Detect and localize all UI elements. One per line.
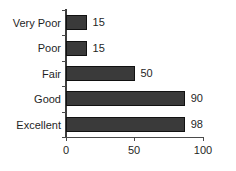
bar-very-poor bbox=[66, 15, 87, 30]
y-axis-tick-label-2: Fair bbox=[42, 69, 61, 80]
bar-fair bbox=[66, 66, 135, 81]
x-axis-tick-100 bbox=[203, 137, 204, 141]
bar-excellent bbox=[66, 117, 185, 132]
x-axis-tick-label-50: 50 bbox=[128, 145, 140, 156]
bar-value-excellent: 98 bbox=[191, 119, 203, 130]
y-axis-tick-label-3: Good bbox=[34, 94, 61, 105]
bar-value-fair: 50 bbox=[141, 68, 153, 79]
bar-chart: Very Poor Poor Fair Good Excellent 15 15… bbox=[0, 0, 236, 171]
bar-value-good: 90 bbox=[191, 93, 203, 104]
bar-row-excellent: 98 bbox=[66, 112, 203, 137]
bar-poor bbox=[66, 41, 87, 56]
x-axis-tick-50 bbox=[134, 137, 135, 141]
bar-row-fair: 50 bbox=[66, 61, 203, 86]
y-axis-tick-label-1: Poor bbox=[38, 43, 61, 54]
plot-area: 15 15 50 90 98 bbox=[66, 10, 203, 137]
x-axis-tick-0 bbox=[66, 137, 67, 141]
y-axis-tick-label-4: Excellent bbox=[16, 120, 61, 131]
bar-good bbox=[66, 91, 185, 106]
y-axis-tick-label-0: Very Poor bbox=[13, 18, 61, 29]
bar-row-very-poor: 15 bbox=[66, 10, 203, 35]
bar-value-very-poor: 15 bbox=[93, 17, 105, 28]
bar-row-poor: 15 bbox=[66, 35, 203, 60]
bar-value-poor: 15 bbox=[93, 43, 105, 54]
x-axis-tick-label-100: 100 bbox=[194, 145, 212, 156]
x-axis-tick-label-0: 0 bbox=[63, 145, 69, 156]
bar-row-good: 90 bbox=[66, 86, 203, 111]
